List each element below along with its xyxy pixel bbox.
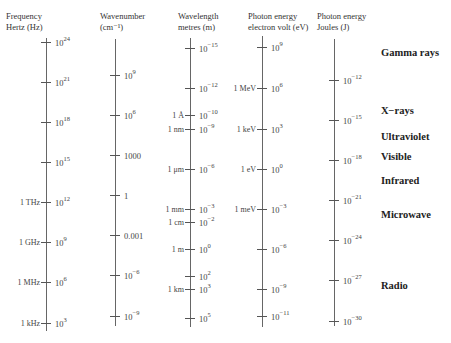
tick-value-base: 10 <box>271 245 280 255</box>
column-header-line: Photon energy <box>317 11 366 22</box>
tick-value-exponent: −6 <box>208 162 215 169</box>
tick-value-base: 10 <box>343 116 352 126</box>
axis-tick <box>110 155 120 156</box>
tick-value-base: 10 <box>199 111 208 121</box>
tick-value-exponent: 3 <box>64 316 67 323</box>
tick-value-base: 10 <box>343 236 352 246</box>
tick-value-exponent: −6 <box>280 242 287 249</box>
tick-value: 109 <box>55 238 67 248</box>
axis-tick <box>110 316 120 317</box>
axis-tick <box>257 209 267 210</box>
tick-unit-label: 1 Å <box>172 111 184 121</box>
column-header-line: Wavelength <box>178 11 218 22</box>
tick-value: 105 <box>199 314 211 324</box>
tick-value: 1015 <box>55 158 70 168</box>
tick-value-exponent: 5 <box>208 311 211 318</box>
tick-value: 106 <box>55 278 67 288</box>
axis-tick <box>110 75 120 76</box>
tick-value-exponent: 3 <box>208 282 211 289</box>
tick-value-base: 10 <box>271 165 280 175</box>
axis-tick <box>41 242 51 243</box>
axis-tick <box>257 316 267 317</box>
axis-line-photon-energy-ev <box>262 36 263 327</box>
tick-unit-label: 1 μm <box>167 165 184 175</box>
tick-value-base: 10 <box>343 156 352 166</box>
axis-tick <box>110 235 120 236</box>
spectrum-region-label: Gamma rays <box>381 47 439 58</box>
tick-value-exponent: −12 <box>352 73 362 80</box>
tick-value-base: 10 <box>55 278 64 288</box>
tick-value: 103 <box>271 125 283 135</box>
axis-line-wavelength <box>190 38 191 327</box>
axis-tick <box>329 240 339 241</box>
tick-value-base: 10 <box>55 158 64 168</box>
axis-tick <box>257 47 267 48</box>
tick-value-exponent: 6 <box>280 81 283 88</box>
axis-tick <box>41 202 51 203</box>
tick-value-exponent: −30 <box>352 314 362 321</box>
column-header-frequency: FrequencyHertz (Hz) <box>6 11 43 33</box>
tick-unit-label: 1 THz <box>20 198 40 208</box>
tick-value-exponent: 9 <box>133 68 136 75</box>
tick-unit-label: 1 cm <box>168 218 184 228</box>
tick-value: 1021 <box>55 78 70 88</box>
tick-value-base: 10 <box>55 38 64 48</box>
axis-tick <box>329 160 339 161</box>
tick-value-base: 10 <box>199 125 208 135</box>
axis-tick <box>329 280 339 281</box>
tick-value-exponent: −3 <box>280 202 287 209</box>
spectrum-region-label: Ultraviolet <box>381 131 429 142</box>
axis-tick <box>329 321 339 322</box>
tick-unit-label: 1 km <box>168 285 184 295</box>
axis-tick <box>185 48 195 49</box>
tick-value: 1000 <box>124 151 141 161</box>
tick-value: 103 <box>55 319 67 329</box>
spectrum-region-label: Infrared <box>381 175 419 186</box>
tick-value: 10−24 <box>343 236 362 246</box>
tick-value-exponent: 18 <box>64 115 71 122</box>
tick-value-base: 10 <box>55 198 64 208</box>
tick-value-base: 10 <box>271 285 280 295</box>
tick-value-base: 10 <box>124 312 133 322</box>
tick-unit-label: 1 MeV <box>234 84 256 94</box>
tick-value-base: 10 <box>343 276 352 286</box>
column-header-line: electron volt (eV) <box>248 22 308 33</box>
tick-value: 1 <box>124 191 128 201</box>
axis-tick <box>185 115 195 116</box>
tick-value: 1024 <box>55 38 70 48</box>
tick-value: 10−3 <box>199 205 214 215</box>
tick-value: 103 <box>199 285 211 295</box>
axis-tick <box>257 169 267 170</box>
axis-tick <box>110 115 120 116</box>
axis-tick <box>41 82 51 83</box>
tick-value-base: 10 <box>271 312 280 322</box>
tick-value: 10−12 <box>199 84 218 94</box>
tick-value: 10−15 <box>343 116 362 126</box>
tick-value: 106 <box>271 84 283 94</box>
tick-value-exponent: −12 <box>208 81 218 88</box>
tick-value-exponent: 2 <box>208 269 211 276</box>
tick-value-base: 10 <box>271 43 280 53</box>
axis-tick <box>185 129 195 130</box>
tick-value: 109 <box>124 71 136 81</box>
tick-value-base: 10 <box>199 165 208 175</box>
tick-value-base: 10 <box>199 272 208 282</box>
tick-value: 10−6 <box>271 245 286 255</box>
tick-value-base: 10 <box>271 125 280 135</box>
axis-tick <box>185 318 195 319</box>
tick-value-base: 10 <box>199 245 208 255</box>
tick-value-exponent: −9 <box>280 282 287 289</box>
tick-value: 10−9 <box>199 125 214 135</box>
column-header-line: Photon energy <box>248 11 308 22</box>
tick-value-exponent: −24 <box>352 233 362 240</box>
axis-line-photon-energy-joules <box>334 39 335 326</box>
tick-value-exponent: 6 <box>64 275 67 282</box>
tick-value-exponent: 9 <box>64 235 67 242</box>
column-header-photon-energy-joules: Photon energyJoules (J) <box>317 11 366 33</box>
axis-tick <box>185 169 195 170</box>
tick-value: 10−21 <box>343 196 362 206</box>
tick-value-base: 10 <box>199 218 208 228</box>
tick-value: 10−10 <box>199 111 218 121</box>
axis-tick <box>257 129 267 130</box>
tick-value-base: 10 <box>343 76 352 86</box>
